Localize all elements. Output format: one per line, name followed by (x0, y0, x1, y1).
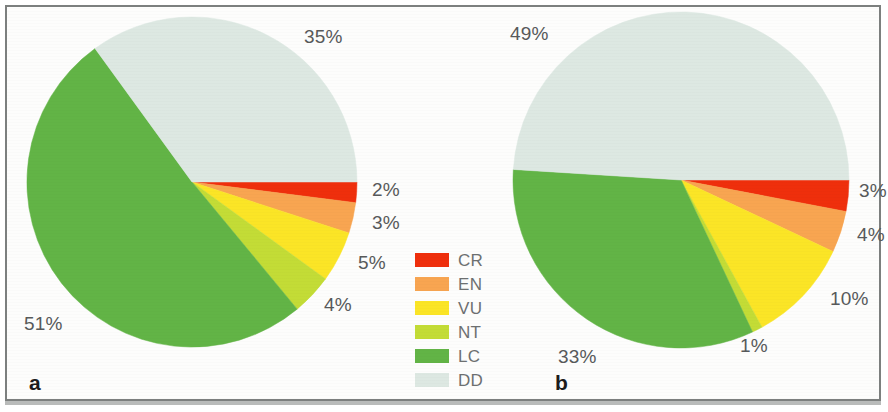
pie-label-a-vu: 5% (358, 253, 386, 272)
legend-swatch-dd (415, 373, 449, 387)
pie-label-b-lc: 33% (558, 347, 597, 366)
legend-label-en: EN (458, 276, 482, 293)
figure-frame: a b CRENVUNTLCDD 2%3%5%4%51%35%3%4%10%1%… (5, 5, 881, 401)
legend-label-lc: LC (458, 348, 480, 365)
legend-item-cr: CR (415, 248, 491, 272)
legend-item-en: EN (415, 272, 491, 296)
pie-label-a-cr: 2% (372, 180, 400, 199)
legend-label-dd: DD (458, 372, 483, 389)
pie-chart-b (511, 10, 851, 350)
panel-letter-a: a (29, 372, 41, 393)
legend-item-nt: NT (415, 320, 491, 344)
legend-swatch-cr (415, 253, 449, 267)
pie-label-a-nt: 4% (324, 295, 352, 314)
legend-swatch-vu (415, 301, 449, 315)
pie-label-a-dd: 35% (304, 27, 343, 46)
pie-svg-a (25, 15, 359, 349)
figure-root: a b CRENVUNTLCDD 2%3%5%4%51%35%3%4%10%1%… (0, 0, 888, 412)
legend-item-lc: LC (415, 344, 491, 368)
pie-slice-b-dd (513, 12, 849, 180)
pie-chart-a (25, 15, 359, 349)
pie-label-a-lc: 51% (24, 314, 63, 333)
legend-label-vu: VU (458, 300, 482, 317)
pie-label-b-en: 4% (857, 225, 885, 244)
legend-label-cr: CR (458, 252, 483, 269)
pie-label-b-cr: 3% (859, 181, 887, 200)
panel-letter-b: b (555, 372, 568, 393)
pie-svg-b (511, 10, 851, 350)
legend-swatch-nt (415, 325, 449, 339)
legend-swatch-lc (415, 349, 449, 363)
legend-label-nt: NT (458, 324, 481, 341)
pie-label-b-vu: 10% (830, 289, 869, 308)
pie-label-a-en: 3% (372, 213, 400, 232)
legend: CRENVUNTLCDD (415, 248, 491, 392)
pie-label-b-dd: 49% (510, 24, 549, 43)
legend-item-vu: VU (415, 296, 491, 320)
legend-swatch-en (415, 277, 449, 291)
pie-label-b-nt: 1% (740, 336, 768, 355)
legend-item-dd: DD (415, 368, 491, 392)
